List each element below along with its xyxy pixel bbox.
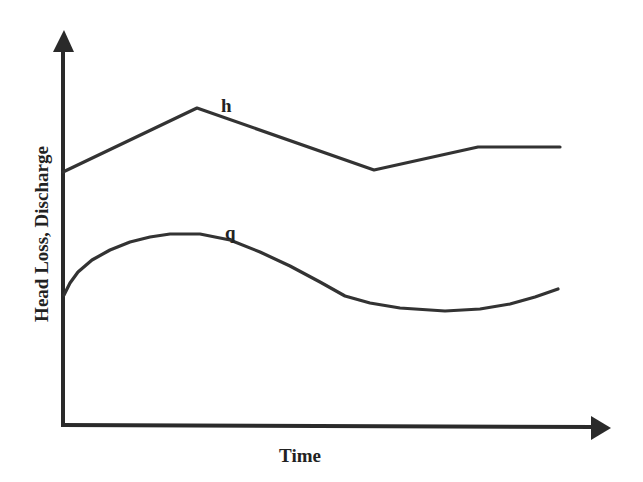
- y-axis-title: Head Loss, Discharge: [31, 146, 52, 322]
- x-axis: [61, 425, 594, 427]
- series-q-line: [64, 234, 558, 311]
- x-axis-arrow-icon: [591, 416, 611, 440]
- x-axis-title: Time: [279, 445, 321, 466]
- series-h-line: [63, 108, 560, 172]
- y-axis-arrow-icon: [53, 30, 74, 52]
- series-h-label: h: [221, 95, 232, 116]
- series-q-label: q: [225, 222, 236, 243]
- chart: h q Time Head Loss, Discharge: [0, 0, 643, 482]
